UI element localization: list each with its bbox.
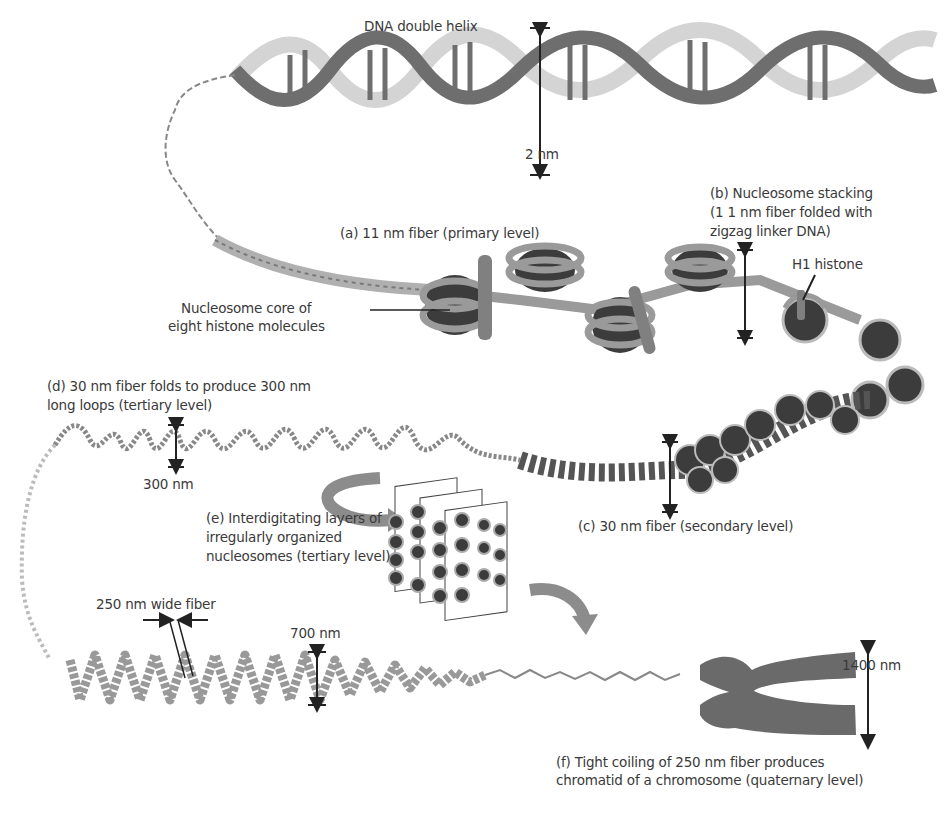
chromosome (700, 652, 856, 735)
label-700nm: 700 nm (290, 625, 341, 642)
label-nucleosome-core-2: eight histone molecules (168, 318, 325, 335)
label-coiling-1: (f) Tight coiling of 250 nm fiber produc… (556, 754, 824, 771)
label-nucleosome-core-1: Nucleosome core of (181, 300, 311, 317)
label-interdig-2: irregularly organized (206, 529, 342, 546)
interdigitating-layers (389, 478, 507, 621)
label-coiling-2: chromatid of a chromosome (quaternary le… (556, 772, 863, 789)
label-dna-double-helix: DNA double helix (364, 18, 477, 35)
label-250nm-wide: 250 nm wide fiber (96, 596, 216, 613)
label-11nm-fiber: (a) 11 nm fiber (primary level) (340, 225, 539, 242)
label-300nm: 300 nm (143, 476, 194, 493)
fiber-30nm (520, 391, 870, 493)
label-loops-2: long loops (tertiary level) (47, 397, 212, 414)
label-1400nm: 1400 nm (842, 657, 901, 674)
label-interdig-3: nucleosomes (tertiary level) (206, 548, 390, 565)
curved-arrow-icon (530, 589, 585, 620)
label-loops-1: (d) 30 nm fiber folds to produce 300 nm (47, 378, 311, 395)
label-h1-histone: H1 histone (792, 256, 863, 273)
label-30nm-fiber: (c) 30 nm fiber (secondary level) (578, 518, 793, 535)
label-stacking-3: zigzag linker DNA) (710, 223, 831, 240)
coil-700nm (70, 655, 680, 700)
label-2nm: 2 nm (525, 146, 559, 163)
label-interdig-1: (e) Interdigitating layers of (206, 510, 382, 527)
label-stacking-2: (1 1 nm fiber folded with (710, 204, 872, 221)
label-stacking-1: (b) Nucleosome stacking (710, 185, 873, 202)
